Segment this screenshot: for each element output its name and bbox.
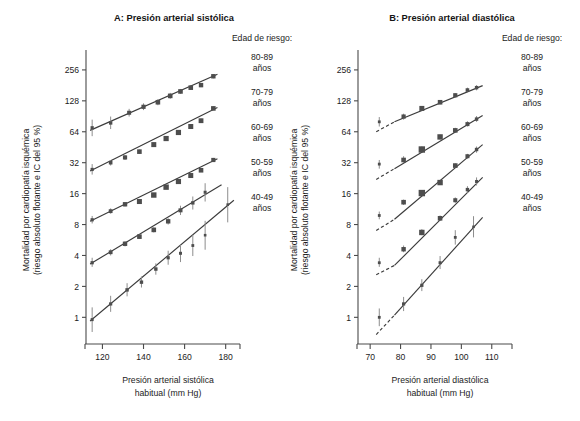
series-80-89-aos-point-5 (168, 94, 173, 99)
series-50-59-aos-point-1 (401, 247, 405, 251)
series-70-79-aos-point-3 (437, 134, 442, 139)
legend-item-age-50-59-range: 50-59 (521, 157, 543, 167)
panel-b-plot: 1248163264128256708090100110 (337, 50, 512, 362)
panel-a-ylabel-line1: Mortalidad por cardiopatía isquémica (21, 129, 31, 272)
y-tick-label-32: 32 (69, 158, 79, 168)
series-50-59-aos (376, 177, 482, 274)
series-40-49-aos-point-9 (226, 203, 229, 206)
series-70-79-aos-point-8 (199, 118, 204, 123)
series-50-59-aos-point-5 (166, 219, 170, 223)
series-60-69-aos-point-2 (419, 190, 425, 196)
y-tick-label-128: 128 (337, 96, 352, 106)
legend-item-age-40-49-range: 40-49 (251, 192, 273, 202)
y-tick-label-32: 32 (341, 158, 351, 168)
y-tick-label-2: 2 (346, 282, 351, 292)
series-70-79-aos-point-9 (211, 106, 216, 111)
legend-item-age-80-89-unit: años (523, 63, 542, 73)
series-70-79-aos-dashed-segment (376, 169, 394, 180)
legend-item-age-40-49-unit: años (253, 203, 272, 213)
series-40-49-aos-point-0 (91, 318, 94, 321)
series-70-79-aos-point-5 (164, 136, 169, 141)
series-80-89-aos (90, 74, 217, 136)
legend-item-age-50-59-unit: años (523, 168, 542, 178)
series-40-49-aos-point-4 (454, 236, 457, 239)
x-tick-label-160: 160 (177, 352, 192, 362)
panel-a-legend-title: Edad de riesgo: (232, 33, 292, 43)
x-tick-label-110: 110 (485, 352, 499, 362)
panel-a-title: A: Presión arterial sistólica (114, 13, 235, 23)
series-40-49-aos-point-3 (140, 280, 143, 283)
series-40-49-aos (376, 216, 482, 334)
series-50-59-aos-point-3 (137, 234, 142, 239)
y-tick-label-256: 256 (337, 65, 352, 75)
y-tick-label-128: 128 (65, 96, 80, 106)
legend-item-age-60-69-range: 60-69 (251, 122, 273, 132)
series-40-49-aos-point-1 (109, 302, 112, 305)
panel-a-xlabel-line2: habitual (mm Hg) (135, 388, 202, 398)
series-40-49-aos-point-1 (402, 302, 405, 305)
legend-item-age-80-89-unit: años (253, 63, 272, 73)
legend-item-age-50-59-unit: años (253, 168, 272, 178)
series-80-89-aos-point-6 (178, 89, 183, 94)
x-tick-label-70: 70 (365, 352, 375, 362)
series-70-79-aos-point-0 (378, 163, 381, 166)
x-tick-label-80: 80 (396, 352, 406, 362)
series-60-69-aos-point-0 (91, 218, 94, 221)
series-70-79-aos-point-1 (109, 161, 113, 165)
series-80-89-aos-point-3 (141, 105, 145, 109)
series-60-69-aos-point-6 (176, 179, 181, 184)
series-80-89-aos-point-0 (91, 126, 94, 129)
series-70-79-aos-point-5 (465, 122, 469, 126)
series-40-49-aos (90, 187, 234, 332)
series-40-49-aos-point-6 (179, 252, 182, 255)
series-60-69-aos-point-3 (437, 180, 442, 185)
series-80-89-aos-point-9 (211, 74, 215, 78)
series-60-69-aos (376, 145, 482, 231)
series-40-49-aos-point-2 (420, 284, 423, 287)
series-60-69-aos-point-7 (188, 173, 193, 178)
panel-b-ylabel-line2: (riesgo absoluto flotante e IC del 95 %) (300, 125, 310, 275)
series-70-79-aos-point-6 (176, 130, 181, 135)
series-80-89-aos-point-1 (402, 114, 406, 118)
x-tick-label-90: 90 (426, 352, 436, 362)
legend-item-age-40-49-range: 40-49 (521, 192, 543, 202)
legend-item-age-70-79-unit: años (253, 98, 272, 108)
series-50-59-aos-point-0 (91, 261, 94, 264)
series-80-89-aos-point-5 (466, 88, 470, 92)
series-60-69-aos-point-5 (465, 154, 469, 158)
y-tick-label-1: 1 (346, 313, 351, 323)
panel-b-ylabel-line1: Mortalidad por cardiopatía isquémica (289, 129, 299, 272)
series-70-79-aos (376, 116, 482, 180)
legend-item-age-80-89-range: 80-89 (251, 52, 273, 62)
x-tick-label-120: 120 (95, 352, 110, 362)
legend-item-age-60-69-unit: años (523, 133, 542, 143)
y-tick-label-64: 64 (69, 127, 79, 137)
panel-b-xlabel-line1: Presión arterial diastólica (391, 375, 488, 385)
x-tick-label-100: 100 (454, 352, 469, 362)
panel-a-xlabel-line1: Presión arterial sistólica (122, 375, 214, 385)
series-50-59-aos-point-3 (438, 216, 443, 221)
series-70-79-aos-point-6 (475, 117, 478, 120)
series-80-89-aos-point-6 (475, 86, 478, 89)
series-80-89-aos-point-7 (188, 85, 193, 90)
series-40-49-aos-point-2 (125, 288, 128, 291)
series-60-69-aos-point-4 (151, 192, 156, 197)
y-tick-label-4: 4 (74, 251, 79, 261)
series-50-59-aos-point-4 (151, 228, 156, 233)
series-50-59-aos-point-5 (466, 188, 469, 191)
dual-panel-scatter-chart: A: Presión arterial sistólica B: Presión… (0, 0, 580, 421)
series-70-79-aos-point-4 (453, 128, 458, 133)
series-80-89-aos-point-8 (199, 83, 203, 87)
series-70-79-aos-point-0 (91, 168, 94, 171)
legend-item-age-70-79-range: 70-79 (251, 87, 273, 97)
series-40-49-aos-point-4 (154, 267, 157, 270)
series-40-49-aos-point-0 (378, 316, 381, 319)
series-70-79-aos (90, 106, 217, 174)
series-70-79-aos-point-4 (151, 142, 156, 147)
series-50-59-aos-point-6 (475, 180, 478, 183)
panel-a-plot: 1248163264128256120140160180 (65, 50, 240, 362)
series-70-79-aos-point-7 (188, 124, 193, 129)
y-tick-label-16: 16 (69, 189, 79, 199)
panel-a-ylabel-line2: (riesgo absoluto flotante e IC del 95 %) (32, 125, 42, 275)
series-70-79-aos-point-2 (419, 146, 425, 152)
